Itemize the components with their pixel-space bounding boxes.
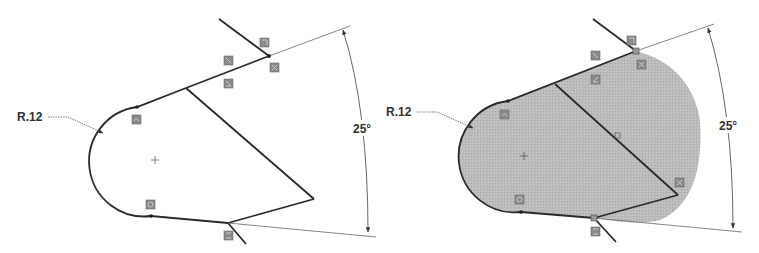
tangent-relation-icon[interactable] [146, 200, 155, 209]
right-endpoint-selected[interactable] [633, 48, 639, 54]
sketch-relation-icon[interactable] [224, 231, 233, 240]
right-endpoint-selected[interactable] [591, 215, 597, 221]
right-shaded-region[interactable] [459, 51, 701, 223]
sketch-relation-icon[interactable] [224, 79, 233, 88]
sketch-relation-icon[interactable] [675, 178, 684, 187]
tangent-relation-icon[interactable] [132, 115, 141, 124]
sketch-relation-icon[interactable] [270, 63, 279, 72]
sketch-relation-icon[interactable] [591, 75, 600, 84]
right-endpoint[interactable] [519, 210, 523, 214]
right-radius-leader [417, 112, 473, 128]
sketch-relation-icon[interactable] [224, 56, 233, 65]
sketch-relation-icon[interactable] [627, 36, 636, 45]
left-angle-dimension-label[interactable]: 25° [353, 122, 371, 136]
right-angle-extension-top [636, 24, 714, 51]
left-angle-extension-bottom [228, 223, 376, 237]
left-lower-line[interactable] [228, 199, 314, 223]
tangent-relation-icon[interactable] [515, 195, 524, 204]
right-radius-dimension-label[interactable]: R.12 [386, 105, 412, 119]
left-diagonal-line[interactable] [186, 88, 314, 199]
right-sketch: 25° R.12 [386, 19, 746, 242]
sketch-canvas: 25° R.12 [0, 0, 759, 253]
sketch-relation-icon[interactable] [591, 51, 600, 60]
left-endpoint[interactable] [267, 54, 271, 58]
left-endpoint[interactable] [135, 105, 139, 109]
tangent-relation-icon[interactable] [500, 110, 509, 119]
left-sketch: 25° R.12 [17, 19, 380, 244]
right-endpoint[interactable] [506, 99, 510, 103]
sketch-relation-icon[interactable] [637, 60, 646, 69]
left-profile-outline[interactable] [89, 88, 228, 223]
sketch-figure: 25° R.12 [0, 0, 759, 253]
right-angle-extension-bottom [594, 218, 742, 232]
right-top-cross-line[interactable] [593, 19, 636, 51]
left-angle-extension-top [269, 26, 350, 56]
right-angle-dimension-label[interactable]: 25° [719, 119, 737, 133]
sketch-relation-icon[interactable] [260, 38, 269, 47]
left-radius-leader [48, 117, 103, 133]
left-center-point-icon[interactable] [151, 156, 159, 164]
left-radius-dimension-label[interactable]: R.12 [17, 110, 43, 124]
sketch-relation-icon[interactable] [591, 227, 600, 236]
left-endpoint[interactable] [149, 214, 153, 218]
left-top-cross-line[interactable] [219, 19, 269, 56]
